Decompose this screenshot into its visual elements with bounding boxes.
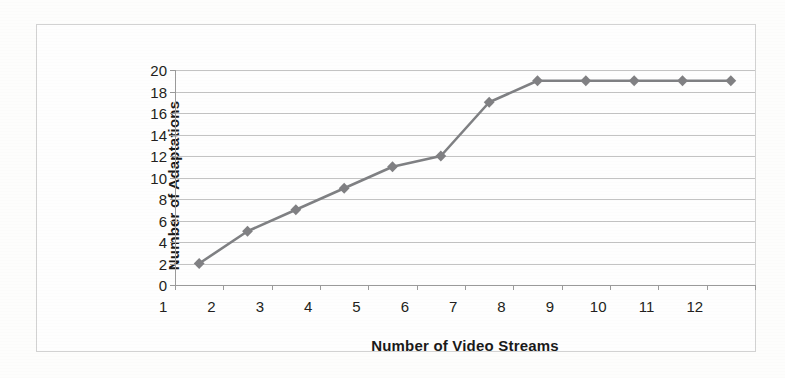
data-point-marker [677,75,688,86]
x-axis-tick-label: 9 [530,299,570,314]
y-axis-tick [170,178,175,179]
y-axis-tick-label: 6 [159,213,167,228]
data-point-marker [387,161,398,172]
y-axis-tick-label: 14 [150,127,167,142]
x-axis-tick-label: 12 [675,299,715,314]
y-axis-tick [170,92,175,93]
x-axis-tick-label: 11 [627,299,667,314]
x-axis-tick-label: 5 [337,299,377,314]
x-axis-tick-label: 6 [385,299,425,314]
x-axis-tick-label: 4 [288,299,328,314]
x-axis-tick-label: 2 [192,299,232,314]
x-axis-tick-label: 1 [143,299,183,314]
y-axis-tick-label: 16 [150,106,167,121]
x-axis-tick [707,285,708,290]
y-axis-tick-label: 12 [150,149,167,164]
data-point-marker [532,75,543,86]
x-axis-title: Number of Video Streams [175,337,755,354]
chart-figure: Number of Adaptations 02468101214161820 … [0,0,785,378]
y-axis-tick [170,156,175,157]
x-axis-tick [417,285,418,290]
x-axis-tick [368,285,369,290]
x-axis-tick [755,285,756,290]
x-axis-tick-label: 8 [482,299,522,314]
data-point-marker [290,204,301,215]
y-axis-tick [170,70,175,71]
y-axis-tick-labels: 02468101214161820 [133,70,167,285]
y-axis-tick [170,135,175,136]
y-axis-tick-label: 20 [150,63,167,78]
y-axis-tick [170,199,175,200]
data-point-marker [725,75,736,86]
x-axis-tick [320,285,321,290]
x-axis-tick-label: 7 [433,299,473,314]
x-axis-tick [272,285,273,290]
y-axis-tick-label: 8 [159,192,167,207]
y-axis-tick-label: 0 [159,278,167,293]
y-axis-tick-label: 4 [159,235,167,250]
y-axis-title-container: Number of Adaptations [99,67,123,287]
x-axis-tick [513,285,514,290]
x-axis-tick [610,285,611,290]
x-axis-tick [465,285,466,290]
y-axis-tick [170,264,175,265]
y-axis-tick [170,113,175,114]
data-point-marker [339,183,350,194]
chart-frame: Number of Adaptations 02468101214161820 … [36,24,756,352]
plot-area [175,70,755,285]
x-axis-tick-label: 3 [240,299,280,314]
data-point-marker [629,75,640,86]
data-series [175,70,755,285]
y-axis-tick-label: 2 [159,256,167,271]
y-axis-tick-label: 18 [150,84,167,99]
y-axis-tick-label: 10 [150,170,167,185]
x-axis-tick [175,285,176,290]
series-line [199,81,731,264]
y-axis-tick [170,221,175,222]
data-point-marker [580,75,591,86]
x-axis-tick [562,285,563,290]
x-axis-tick [658,285,659,290]
x-axis-tick-label: 10 [578,299,618,314]
y-axis-tick [170,242,175,243]
x-axis-tick [223,285,224,290]
